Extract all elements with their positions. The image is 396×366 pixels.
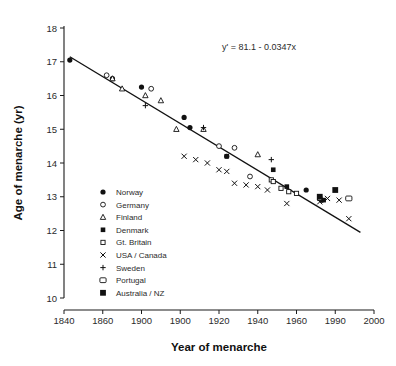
x-tick-label: 1840 bbox=[53, 315, 74, 326]
data-point-finland bbox=[255, 152, 260, 157]
data-point-denmark bbox=[271, 167, 276, 172]
data-point-gt-britain bbox=[271, 179, 275, 183]
data-point-finland bbox=[174, 126, 179, 131]
data-point-norway bbox=[187, 125, 192, 130]
data-point-norway bbox=[139, 84, 144, 89]
legend-label-sweden: Sweden bbox=[116, 264, 145, 273]
chart-page: 1011121314151617181840186019001900192019… bbox=[0, 0, 396, 366]
y-tick-label: 10 bbox=[46, 293, 57, 304]
x-tick-label: 1900 bbox=[170, 315, 191, 326]
data-point-gt-britain bbox=[287, 190, 291, 194]
y-tick-label: 14 bbox=[46, 158, 57, 169]
equation-annotation: y' = 81.1 - 0.0347x bbox=[222, 42, 297, 52]
y-tick-label: 16 bbox=[46, 90, 57, 101]
data-point-finland bbox=[143, 93, 148, 98]
data-point-denmark bbox=[285, 184, 290, 189]
legend-label-portugal: Portugal bbox=[116, 276, 146, 285]
data-point-norway bbox=[67, 57, 72, 62]
data-point-germany bbox=[104, 73, 109, 78]
data-point-finland bbox=[158, 98, 163, 103]
legend-label-norway: Norway bbox=[116, 188, 143, 197]
legend-marker-germany bbox=[101, 202, 106, 207]
legend-marker-denmark bbox=[101, 228, 106, 233]
data-point-portugal bbox=[346, 196, 352, 201]
data-point-australia-nz bbox=[332, 187, 338, 193]
y-tick-label: 17 bbox=[46, 56, 57, 67]
x-tick-label: 1860 bbox=[92, 315, 113, 326]
legend-label-finland: Finland bbox=[116, 213, 142, 222]
legend-label-germany: Germany bbox=[116, 201, 149, 210]
data-point-germany bbox=[149, 86, 154, 91]
data-point-germany bbox=[232, 145, 237, 150]
y-tick-label: 15 bbox=[46, 124, 57, 135]
data-point-australia-nz bbox=[317, 194, 323, 200]
x-tick-label: 2000 bbox=[363, 315, 384, 326]
y-tick-label: 18 bbox=[46, 23, 57, 34]
menarche-scatter-chart: 1011121314151617181840186019001900192019… bbox=[0, 0, 396, 366]
y-tick-label: 11 bbox=[47, 259, 57, 270]
legend-label-denmark: Denmark bbox=[116, 226, 149, 235]
legend-label-gt-britain: Gt. Britain bbox=[116, 238, 152, 247]
data-point-gt-britain bbox=[294, 191, 298, 195]
legend-marker-australia-nz bbox=[100, 290, 106, 296]
data-point-germany bbox=[217, 144, 222, 149]
legend-marker-portugal bbox=[100, 278, 106, 283]
x-axis-title: Year of menarche bbox=[171, 341, 267, 353]
y-tick-label: 12 bbox=[46, 225, 57, 236]
x-tick-label: 1920 bbox=[208, 315, 229, 326]
data-point-norway bbox=[182, 115, 187, 120]
y-tick-label: 13 bbox=[46, 191, 57, 202]
trend-line bbox=[70, 57, 361, 233]
data-point-denmark bbox=[224, 154, 229, 159]
legend-marker-finland bbox=[100, 214, 105, 219]
legend-label-australia-nz: Australia / NZ bbox=[116, 289, 165, 298]
y-axis-title: Age of menarche (yr) bbox=[12, 105, 24, 220]
data-point-germany bbox=[248, 174, 253, 179]
x-tick-label: 1900 bbox=[131, 315, 152, 326]
x-tick-label: 1940 bbox=[247, 315, 268, 326]
data-point-norway bbox=[304, 187, 309, 192]
legend-marker-gt-britain bbox=[101, 240, 105, 244]
legend-marker-norway bbox=[100, 189, 105, 194]
x-tick-label: 1960 bbox=[286, 315, 307, 326]
data-point-gt-britain bbox=[279, 186, 283, 190]
legend-label-usa-canada: USA / Canada bbox=[116, 251, 167, 260]
x-tick-label: 1990 bbox=[325, 315, 346, 326]
